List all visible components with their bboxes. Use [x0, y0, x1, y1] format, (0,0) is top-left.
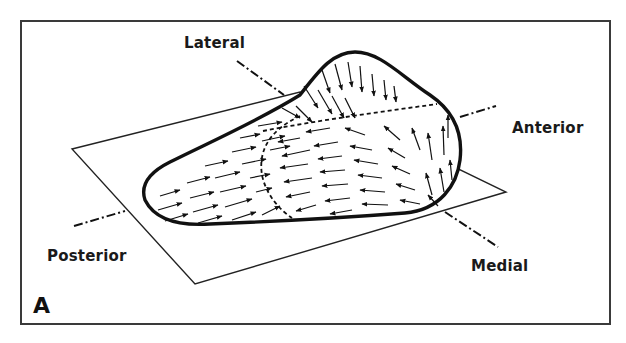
diagram-figure: Lateral Anterior Posterior Medial A	[0, 0, 626, 343]
lateral-axis	[237, 61, 284, 95]
panel-label: A	[33, 293, 50, 318]
medial-label: Medial	[471, 257, 528, 275]
anterior-label: Anterior	[512, 119, 583, 137]
lateral-label: Lateral	[184, 34, 245, 52]
surface-outline	[144, 52, 461, 224]
medial-axis	[445, 212, 498, 247]
posterior-label: Posterior	[47, 247, 127, 265]
posterior-axis	[74, 211, 125, 226]
anterior-axis	[460, 106, 496, 117]
vector-field-diagram	[0, 0, 626, 343]
